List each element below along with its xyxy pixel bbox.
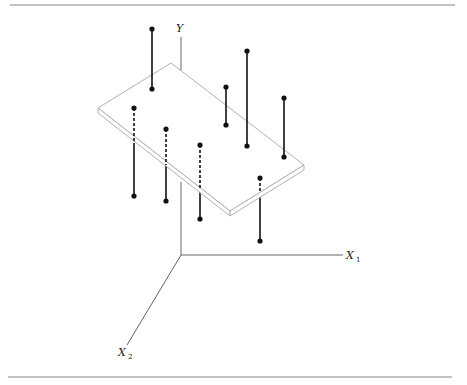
point-7-observed	[244, 48, 249, 53]
point-5-observed	[257, 238, 262, 243]
point-1-fitted	[149, 86, 154, 91]
point-2-observed	[131, 193, 136, 198]
x1-axis-label: X	[345, 249, 355, 262]
regression-plane-diagram: Y X 1 X 2	[0, 0, 467, 385]
x2-axis-subscript: 2	[128, 353, 132, 361]
x2-axis-label: X	[117, 346, 127, 359]
point-7-fitted	[244, 143, 249, 148]
point-6-observed	[223, 84, 228, 89]
point-2-fitted	[131, 105, 136, 110]
point-4-observed	[197, 216, 202, 221]
point-8-fitted	[281, 154, 286, 159]
point-4-fitted	[197, 142, 202, 147]
point-8-observed	[281, 95, 286, 100]
point-3-fitted	[163, 126, 168, 131]
x1-axis-subscript: 1	[356, 256, 360, 264]
regression-plane	[98, 63, 304, 216]
point-6-fitted	[223, 122, 228, 127]
point-1-observed	[149, 26, 154, 31]
y-axis-label: Y	[176, 22, 185, 35]
point-5-fitted	[257, 175, 262, 180]
point-3-observed	[163, 198, 168, 203]
x2-axis	[127, 255, 181, 345]
